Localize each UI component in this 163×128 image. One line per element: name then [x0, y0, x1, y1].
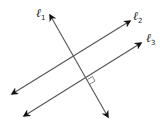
label-l3: ℓ 3 — [146, 31, 155, 47]
svg-text:1: 1 — [41, 14, 45, 22]
label-l1: ℓ 1 — [36, 6, 45, 22]
svg-text:2: 2 — [138, 17, 142, 25]
line-l2 — [12, 21, 130, 94]
lines-diagram: ℓ 1 ℓ 2 ℓ 3 — [0, 0, 163, 128]
svg-text:3: 3 — [151, 39, 155, 47]
line-l1 — [50, 15, 108, 117]
line-l3 — [24, 43, 141, 116]
label-l2: ℓ 2 — [133, 9, 142, 25]
